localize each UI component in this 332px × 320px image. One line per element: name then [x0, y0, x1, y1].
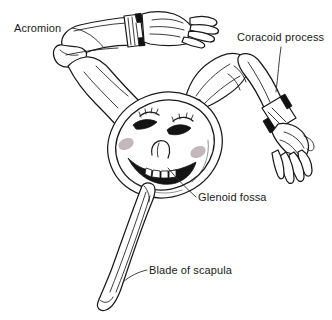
label-blade-of-scapula: Blade of scapula — [149, 264, 232, 276]
tooth-2 — [152, 170, 160, 178]
tooth-3 — [161, 171, 168, 178]
scapula-figure: .ln { fill:none; stroke:#1a1a1a; stroke-… — [0, 0, 332, 320]
label-glenoid-fossa: Glenoid fossa — [198, 191, 267, 203]
coracoid-leader-line — [276, 47, 281, 92]
scapula-blade-group — [97, 183, 155, 311]
scapula-blade — [97, 183, 155, 311]
label-acromion: Acromion — [14, 22, 61, 34]
label-coracoid-process: Coracoid process — [237, 31, 324, 43]
